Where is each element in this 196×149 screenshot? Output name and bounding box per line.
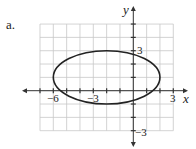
x-tick-label-3: 3 — [170, 92, 176, 104]
y-tick-label-neg3: −3 — [135, 126, 147, 138]
ellipse-graph — [0, 0, 196, 149]
y-tick-label-3: 3 — [137, 44, 143, 56]
part-label: a. — [6, 17, 15, 33]
x-axis-label: x — [183, 91, 189, 107]
x-tick-label-neg3: −3 — [87, 92, 99, 104]
y-axis-label: y — [123, 2, 129, 18]
x-tick-label-neg6: −6 — [47, 92, 59, 104]
grid-lines — [40, 24, 173, 131]
axes — [22, 6, 188, 147]
